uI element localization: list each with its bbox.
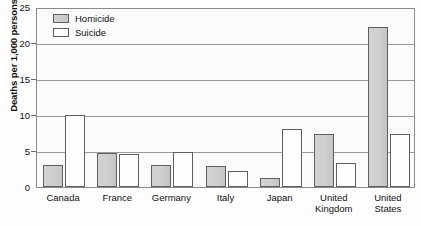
x-axis-tick-label: Germany	[144, 192, 198, 203]
x-axis-tick-label: United Kingdom	[307, 192, 361, 214]
x-axis-tick-label: France	[90, 192, 144, 203]
filled-gray-swatch-icon	[53, 14, 69, 23]
x-axis-tick-label: Japan	[253, 192, 307, 203]
bar-homicide-canada	[43, 165, 63, 187]
x-axis-tick-label: United States	[361, 192, 415, 214]
y-axis-tick-label: 10	[4, 110, 30, 121]
bar-homicide-japan	[260, 178, 280, 187]
bar-homicide-italy	[206, 166, 226, 187]
bar-suicide-united-states	[390, 134, 410, 187]
gridline	[37, 116, 414, 117]
y-axis-tick-label: 0	[4, 182, 30, 193]
y-axis-tick-label: 20	[4, 38, 30, 49]
bar-suicide-france	[119, 154, 139, 187]
bar-homicide-united-states	[368, 27, 388, 187]
gridline	[37, 152, 414, 153]
gridline	[37, 80, 414, 81]
bar-chart-figure: Deaths per 1,000 persons 0510152025 Cana…	[0, 0, 421, 226]
bar-suicide-germany	[173, 152, 193, 187]
bar-homicide-united-kingdom	[314, 134, 334, 187]
bar-homicide-france	[97, 153, 117, 187]
bar-suicide-canada	[65, 115, 85, 187]
chart-legend: Homicide Suicide	[53, 13, 115, 38]
legend-item-label: Homicide	[75, 13, 115, 24]
y-axis-tick-label: 5	[4, 146, 30, 157]
legend-item-suicide: Suicide	[53, 27, 115, 38]
outline-white-swatch-icon	[53, 28, 69, 37]
bar-suicide-japan	[282, 129, 302, 187]
x-axis-tick-label: Canada	[36, 192, 90, 203]
y-axis-tick-label: 15	[4, 74, 30, 85]
bar-homicide-germany	[151, 165, 171, 187]
legend-item-homicide: Homicide	[53, 13, 115, 24]
bar-suicide-united-kingdom	[336, 163, 356, 187]
x-axis-tick-label: Italy	[198, 192, 252, 203]
bar-suicide-italy	[228, 171, 248, 187]
legend-item-label: Suicide	[75, 27, 106, 38]
gridline	[37, 44, 414, 45]
y-axis-tick-label: 25	[4, 2, 30, 13]
